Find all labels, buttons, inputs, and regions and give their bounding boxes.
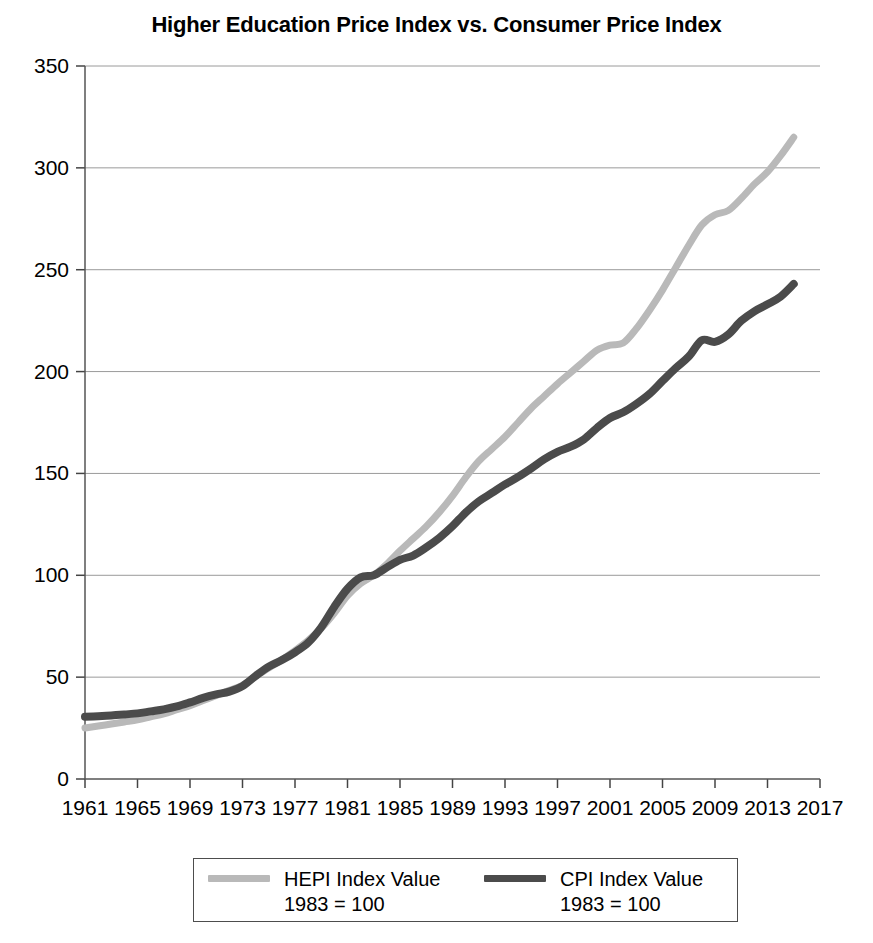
x-tick-label: 2013 [744,796,791,819]
chart-page: Higher Education Price Index vs. Consume… [0,0,873,943]
x-tick-label: 1981 [324,796,371,819]
x-tick-label: 2005 [639,796,686,819]
x-tick-label: 2001 [587,796,634,819]
legend-item-hepi: HEPI Index Value1983 = 100 [208,867,440,917]
plot-area: 050100150200250300350 196119651969197319… [0,0,873,848]
y-tick-label: 300 [34,156,69,179]
x-tick-label: 1965 [114,796,161,819]
y-tick-label: 150 [34,461,69,484]
legend-label-hepi-sub: 1983 = 100 [284,893,385,915]
series-line-cpi [85,284,794,717]
legend-swatch-hepi-icon [208,875,270,882]
x-tick-label: 1993 [482,796,529,819]
line-chart-svg: 050100150200250300350 196119651969197319… [0,0,873,848]
legend-swatch-cpi-icon [484,875,546,882]
chart-legend: HEPI Index Value1983 = 100 CPI Index Val… [193,858,738,922]
x-tick-label: 1969 [167,796,214,819]
y-axis-labels: 050100150200250300350 [34,54,69,790]
legend-label-hepi: HEPI Index Value1983 = 100 [284,867,440,917]
x-tick-label: 1997 [534,796,581,819]
legend-item-cpi: CPI Index Value1983 = 100 [484,867,703,917]
x-axis-labels: 1961196519691973197719811985198919931997… [62,796,844,819]
y-tick-label: 0 [57,767,69,790]
gridlines [85,66,820,779]
data-series-layer [85,137,794,728]
x-axis-ticks [85,779,820,788]
y-tick-label: 100 [34,563,69,586]
x-tick-label: 1989 [429,796,476,819]
legend-label-hepi-name: HEPI Index Value [284,868,440,890]
y-tick-label: 200 [34,360,69,383]
y-tick-label: 350 [34,54,69,77]
x-tick-label: 1961 [62,796,109,819]
x-tick-label: 1985 [377,796,424,819]
y-axis-ticks [76,66,85,779]
legend-label-cpi-name: CPI Index Value [560,868,703,890]
y-tick-label: 250 [34,258,69,281]
y-tick-label: 50 [46,665,69,688]
x-tick-label: 1973 [219,796,266,819]
x-tick-label: 2009 [692,796,739,819]
x-tick-label: 1977 [272,796,319,819]
series-line-hepi [85,137,794,728]
legend-label-cpi: CPI Index Value1983 = 100 [560,867,703,917]
x-tick-label: 2017 [797,796,844,819]
legend-label-cpi-sub: 1983 = 100 [560,893,661,915]
